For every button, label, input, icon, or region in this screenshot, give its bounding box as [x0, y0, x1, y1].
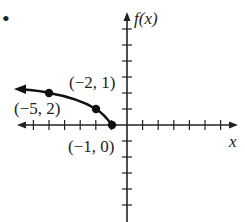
- function-graph: • x f(x) (−5, 2) (−2, 1) (−1, 0): [0, 0, 245, 222]
- point-label-neg2-1: (−2, 1): [69, 73, 115, 92]
- point-label-neg1-0: (−1, 0): [68, 137, 114, 156]
- y-axis-label: f(x): [134, 9, 158, 28]
- x-axis-left-arrow-icon: [17, 122, 26, 129]
- y-axis: f(x): [122, 9, 158, 222]
- x-axis-arrow-icon: [229, 122, 238, 129]
- point-neg5-2: [45, 89, 53, 97]
- list-bullet: •: [2, 6, 10, 31]
- x-axis-label: x: [228, 132, 237, 151]
- point-label-neg5-2: (−5, 2): [14, 99, 60, 118]
- y-axis-arrow-icon: [124, 12, 131, 21]
- point-neg2-1: [92, 105, 100, 113]
- point-neg1-0: [108, 121, 116, 129]
- curve-left-arrow-icon: [14, 85, 26, 95]
